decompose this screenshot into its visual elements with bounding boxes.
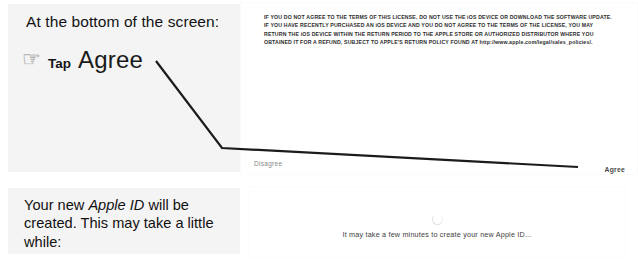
annotation-card-bottom: Your new Apple ID will be created. This … — [8, 188, 240, 254]
note-text-before: Your new — [24, 197, 88, 213]
disagree-button[interactable]: Disagree — [254, 160, 282, 167]
tap-action-label: Tap — [48, 56, 71, 71]
instruction-heading: At the bottom of the screen: — [26, 13, 219, 31]
agree-target-label: Agree — [78, 46, 143, 74]
license-button-bar: Disagree Agree — [240, 160, 638, 178]
screenshot-stage: At the bottom of the screen: ☞ Tap Agree… — [0, 0, 638, 259]
license-agreement-text: IF YOU DO NOT AGREE TO THE TERMS OF THIS… — [264, 13, 612, 47]
creating-account-note: Your new Apple ID will be created. This … — [24, 196, 236, 251]
device-screen-license: IF YOU DO NOT AGREE TO THE TERMS OF THIS… — [240, 2, 638, 175]
annotation-card-top: At the bottom of the screen: ☞ Tap Agree — [8, 4, 246, 172]
note-text-emphasis: Apple ID — [88, 197, 144, 213]
agree-button[interactable]: Agree — [604, 166, 625, 173]
loading-spinner-icon — [432, 214, 443, 225]
tap-instruction-row: ☞ Tap Agree — [22, 46, 143, 74]
device-screen-creating-apple-id: It may take a few minutes to create your… — [248, 186, 626, 258]
pointing-hand-icon: ☞ — [22, 48, 41, 69]
creating-status-text: It may take a few minutes to create your… — [248, 230, 626, 239]
